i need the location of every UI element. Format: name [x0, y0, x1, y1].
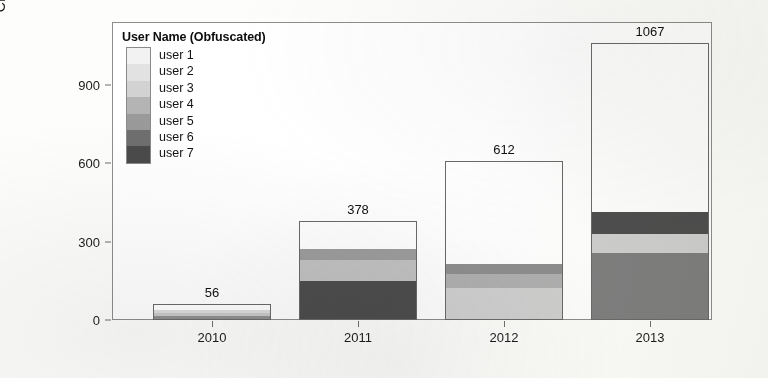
bar-2013[interactable]: [591, 43, 709, 320]
y-tick-mark: [105, 85, 111, 86]
bar-2012[interactable]: [445, 161, 563, 320]
bar-total-label: 56: [205, 285, 219, 300]
bar-segment-user-5: [592, 253, 708, 319]
x-tick-label: 2011: [344, 330, 372, 345]
y-tick-mark: [105, 163, 111, 164]
x-tick-mark: [212, 321, 213, 327]
bar-segment-user-3: [592, 234, 708, 254]
legend-swatch-user-2: [127, 64, 150, 80]
x-tick-mark: [358, 321, 359, 327]
legend-swatch-strip: [126, 47, 151, 164]
bar-total-label: 612: [493, 142, 515, 157]
legend-swatch-user-7: [127, 146, 150, 162]
x-tick-mark: [504, 321, 505, 327]
y-tick-mark: [105, 320, 111, 321]
bar-segment-user-7: [154, 316, 270, 319]
bar-segment-user-3: [446, 288, 562, 319]
x-tick-label: 2012: [490, 330, 519, 345]
bar-segment-white-remainder: [446, 162, 562, 264]
legend-swatch-user-5: [127, 114, 150, 130]
bar-total-label: 1067: [636, 24, 665, 39]
bar-2011[interactable]: [299, 221, 417, 320]
y-tick-label: 300: [0, 235, 100, 250]
bar-2010[interactable]: [153, 304, 271, 320]
y-tick-label: 0: [0, 313, 100, 328]
x-tick-label: 2010: [198, 330, 227, 345]
x-tick-label: 2013: [636, 330, 665, 345]
bar-segment-white-remainder: [592, 44, 708, 212]
bar-segment-user-7: [592, 212, 708, 234]
x-tick-mark: [650, 321, 651, 327]
legend-swatch-user-6: [127, 130, 150, 146]
legend-body: user 1user 2user 3user 4user 5user 6user…: [122, 47, 292, 162]
bar-segment-user-5: [446, 264, 562, 274]
bar-segment-user-7: [300, 281, 416, 319]
bar-total-label: 378: [347, 202, 369, 217]
legend-title: User Name (Obfuscated): [122, 30, 292, 44]
y-tick-label: 900: [0, 78, 100, 93]
stacked-bar-chart: CPU Time (Years) 9006003000 201020112012…: [0, 0, 768, 378]
legend-swatch-user-3: [127, 81, 150, 97]
bar-segment-user-5: [300, 260, 416, 281]
legend-swatch-user-4: [127, 97, 150, 113]
legend: User Name (Obfuscated) user 1user 2user …: [122, 30, 292, 162]
y-axis-title: CPU Time (Years): [0, 0, 8, 56]
legend-swatch-user-1: [127, 48, 150, 64]
bar-segment-user-4: [300, 249, 416, 260]
bar-segment-user-4: [446, 274, 562, 289]
y-tick-label: 600: [0, 156, 100, 171]
bar-segment-white-remainder: [300, 222, 416, 249]
y-tick-mark: [105, 242, 111, 243]
